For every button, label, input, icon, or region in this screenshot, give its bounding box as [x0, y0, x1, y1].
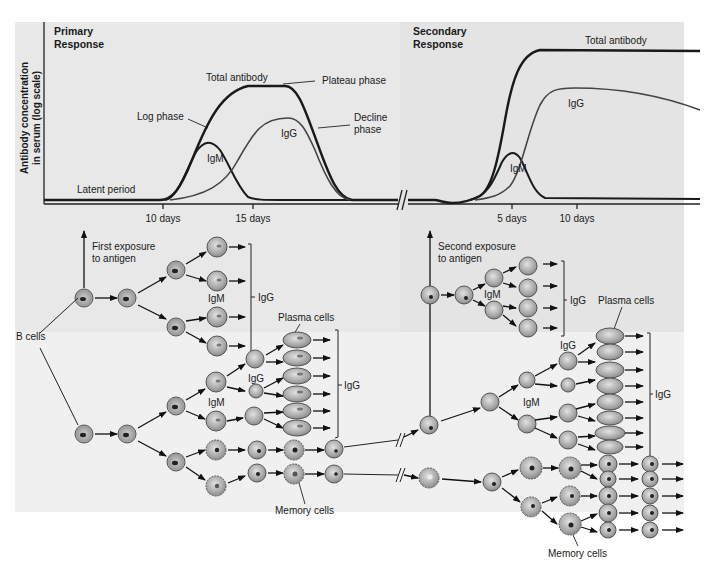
- b-cell: [167, 453, 185, 471]
- tick-label-15-days: 15 days: [235, 213, 270, 224]
- label-total-antibody-secondary: Total antibody: [585, 35, 647, 46]
- igg-secreting-cell: [519, 257, 537, 275]
- label-total-antibody: Total antibody: [206, 72, 268, 83]
- label-igg-top-primary: IgG: [258, 292, 274, 303]
- memory-cell: [284, 440, 304, 460]
- label-log-phase: Log phase: [137, 111, 184, 122]
- secondary-title: Secondary: [413, 25, 467, 37]
- y-axis-label: Antibody concentration in serum (log sca…: [19, 62, 42, 174]
- chart-panel-secondary: [400, 22, 684, 332]
- label-second-exposure-2: to antigen: [438, 253, 482, 264]
- memory-cell: [248, 441, 266, 459]
- igg-secreting-cell: [245, 407, 263, 425]
- igm-secreting-cell: [518, 415, 536, 433]
- label-second-exposure: Second exposure: [438, 241, 516, 252]
- b-cell: [167, 397, 185, 415]
- label-igg-right-primary: IgG: [344, 380, 360, 391]
- label-igm-mid-secondary: IgM: [523, 397, 540, 408]
- svg-text:in serum (log scale): in serum (log scale): [31, 71, 42, 165]
- igm-secreting-cell: [207, 307, 227, 327]
- chart-panel-primary: [15, 22, 400, 332]
- memory-cell: [559, 513, 581, 535]
- label-igm-top-primary: IgM: [208, 293, 225, 304]
- igm-secreting-cell: [207, 271, 227, 291]
- memory-cell: [642, 505, 658, 521]
- memory-cell: [559, 457, 581, 479]
- label-igg-mid-primary: IgG: [248, 373, 264, 384]
- label-igm-primary: IgM: [207, 153, 224, 164]
- memory-cell: [642, 456, 658, 472]
- memory-cell: [325, 440, 343, 458]
- label-plateau-phase: Plateau phase: [322, 75, 386, 86]
- b-cell: [167, 261, 185, 279]
- memory-cell: [421, 286, 439, 304]
- label-igm-secondary: IgM: [510, 163, 527, 174]
- igm-secreting-cell: [485, 269, 503, 287]
- label-igm-top-secondary: IgM: [484, 289, 501, 300]
- memory-cell: [560, 486, 580, 506]
- igg-secreting-cell: [559, 352, 577, 370]
- igg-secreting-cell: [246, 350, 264, 368]
- igm-secreting-cell: [206, 372, 226, 392]
- memory-cell: [483, 473, 501, 491]
- secondary-title-2: Response: [413, 38, 463, 50]
- label-decline-phase-2: phase: [354, 124, 382, 135]
- plasma-cell: [283, 420, 311, 436]
- memory-cell: [520, 457, 542, 479]
- tick-label-10-days-secondary: 10 days: [559, 213, 594, 224]
- memory-cell: [420, 416, 438, 434]
- label-memory-cells-secondary: Memory cells: [548, 548, 607, 559]
- igg-secreting-cell: [561, 378, 575, 392]
- b-cell: [75, 425, 93, 443]
- memory-cell: [284, 464, 304, 484]
- igm-secreting-cell: [206, 411, 226, 431]
- b-cell: [118, 289, 136, 307]
- memory-cell: [325, 465, 343, 483]
- memory-cell: [206, 476, 226, 496]
- memory-cell: [599, 455, 617, 473]
- memory-cell: [642, 522, 658, 538]
- label-first-exposure: First exposure: [92, 241, 156, 252]
- memory-cell: [248, 464, 266, 482]
- plasma-cell: [597, 411, 623, 425]
- tick-label-5-days: 5 days: [497, 213, 526, 224]
- memory-cell: [600, 471, 616, 487]
- primary-title-2: Response: [54, 38, 104, 50]
- memory-cell: [599, 487, 617, 505]
- memory-cell: [455, 286, 473, 304]
- primary-title: Primary: [54, 25, 93, 37]
- memory-cell: [206, 440, 226, 460]
- label-latent-period: Latent period: [77, 184, 135, 195]
- igg-secreting-cell: [519, 299, 537, 317]
- plasma-cell: [597, 378, 623, 394]
- plasma-cell: [595, 426, 625, 440]
- label-igg-primary: IgG: [281, 128, 297, 139]
- label-igg-right-secondary: IgG: [655, 389, 671, 400]
- b-cell: [118, 425, 136, 443]
- tick-label-10-days: 10 days: [145, 213, 180, 224]
- label-igg-top-secondary: IgG: [570, 295, 586, 306]
- antibody-response-diagram: Antibody concentration in serum (log sca…: [0, 0, 715, 570]
- plasma-cell: [283, 403, 311, 419]
- lower-panel: [15, 332, 684, 512]
- b-cell: [167, 318, 185, 336]
- igg-secreting-cell: [249, 384, 263, 398]
- igg-secreting-cell: [519, 319, 537, 337]
- plasma-cell: [283, 350, 311, 366]
- memory-cell: [642, 488, 658, 504]
- label-memory-cells-primary: Memory cells: [275, 505, 334, 516]
- memory-cell: [521, 497, 541, 517]
- memory-cell: [419, 468, 439, 488]
- igm-secreting-cell: [207, 237, 227, 257]
- memory-cell: [599, 504, 617, 522]
- label-igg-secondary: IgG: [568, 98, 584, 109]
- label-igg-mid-secondary: IgG: [560, 340, 576, 351]
- plasma-cell: [596, 362, 624, 378]
- b-cell: [481, 393, 499, 411]
- plasma-cell: [597, 344, 623, 360]
- igg-secreting-cell: [519, 279, 537, 297]
- plasma-cell: [597, 394, 623, 410]
- igg-secreting-cell: [559, 431, 577, 449]
- igm-secreting-cell: [485, 301, 503, 319]
- label-decline-phase: Decline: [354, 112, 388, 123]
